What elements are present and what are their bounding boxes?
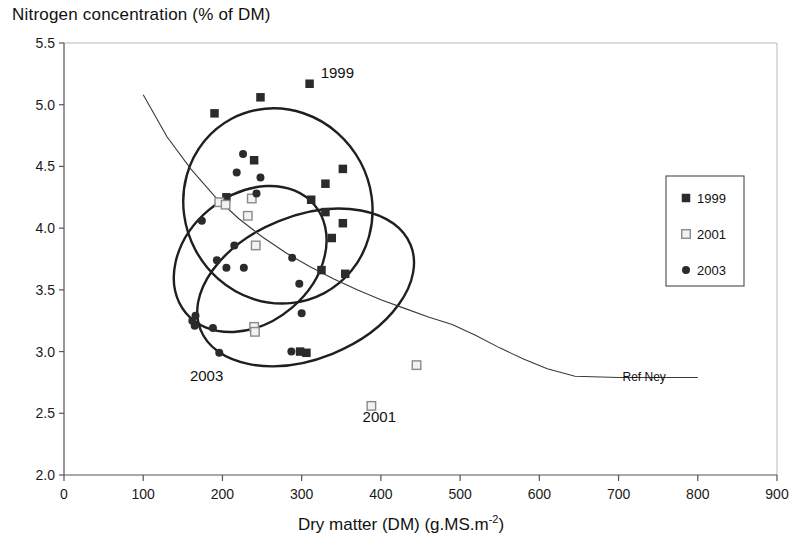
data-point-2003: [230, 241, 238, 249]
data-point-1999: [328, 234, 337, 243]
scatter-plot: 2.02.53.03.54.04.55.05.50100200300400500…: [0, 0, 802, 546]
data-point-2003: [295, 280, 303, 288]
group-label-2003: 2003: [190, 367, 223, 384]
x-tick-label: 600: [528, 486, 552, 502]
ellipse-2001: [174, 179, 438, 397]
ellipse-labels: 199920012003: [190, 64, 396, 425]
data-point-1999: [341, 270, 350, 279]
chart-figure: Nitrogen concentration (% of DM) Dry mat…: [0, 0, 802, 546]
data-point-2001: [251, 328, 259, 337]
data-point-1999: [302, 349, 311, 358]
series-2001: [215, 194, 421, 410]
x-tick-label: 100: [132, 486, 156, 502]
data-point-1999: [321, 208, 330, 217]
data-point-2003: [256, 174, 264, 182]
data-point-1999: [210, 109, 219, 118]
data-point-2003: [240, 264, 248, 272]
legend-label-2001: 2001: [697, 227, 726, 242]
ellipse-1999: [149, 75, 407, 337]
data-point-2003: [188, 317, 196, 325]
data-point-2003: [198, 217, 206, 225]
y-tick-label: 3.0: [36, 344, 56, 360]
data-point-1999: [339, 165, 348, 174]
reference-curve: Ref Ney: [143, 95, 698, 385]
data-point-2003: [222, 264, 230, 272]
x-tick-label: 200: [211, 486, 235, 502]
data-point-1999: [250, 156, 259, 165]
data-point-1999: [339, 219, 348, 228]
y-tick-label: 4.0: [36, 220, 56, 236]
x-tick-label: 500: [448, 486, 472, 502]
data-point-2003: [233, 169, 241, 177]
data-point-1999: [307, 196, 316, 205]
ref-ney-curve: [143, 95, 698, 378]
x-tick-label: 800: [686, 486, 710, 502]
data-point-2003: [213, 256, 221, 264]
data-point-2001: [221, 200, 230, 209]
y-tick-label: 2.0: [36, 467, 56, 483]
group-label-2001: 2001: [363, 408, 396, 425]
y-tick-label: 5.5: [36, 35, 56, 51]
data-point-1999: [317, 266, 326, 275]
x-tick-label: 300: [290, 486, 314, 502]
ref-ney-label: Ref Ney: [623, 370, 666, 384]
data-point-1999: [321, 179, 330, 188]
data-point-2001: [244, 212, 253, 221]
data-point-2001: [412, 361, 421, 370]
legend-label-2003: 2003: [697, 263, 726, 278]
data-point-2003: [287, 348, 295, 356]
y-tick-label: 5.0: [36, 97, 56, 113]
legend-marker-2003: [682, 266, 690, 274]
data-point-1999: [256, 93, 265, 102]
legend-marker-1999: [682, 194, 691, 203]
x-tick-label: 900: [765, 486, 789, 502]
data-point-2003: [253, 190, 261, 198]
legend-label-1999: 1999: [697, 191, 726, 206]
legend-marker-2001: [682, 230, 691, 239]
x-tick-label: 400: [369, 486, 393, 502]
group-label-1999: 1999: [321, 64, 354, 81]
x-tick-label: 0: [60, 486, 68, 502]
data-points-layer: [188, 79, 420, 410]
data-point-2003: [298, 309, 306, 317]
data-point-2003: [288, 254, 296, 262]
series-2003: [188, 150, 305, 357]
data-point-2003: [239, 150, 247, 158]
x-tick-label: 700: [607, 486, 631, 502]
y-tick-label: 3.5: [36, 282, 56, 298]
data-point-2003: [209, 324, 217, 332]
data-point-2003: [215, 349, 223, 357]
legend: 199920012003: [666, 176, 744, 286]
y-tick-label: 4.5: [36, 158, 56, 174]
data-point-2001: [251, 241, 260, 250]
data-point-1999: [305, 79, 314, 88]
y-tick-label: 2.5: [36, 405, 56, 421]
